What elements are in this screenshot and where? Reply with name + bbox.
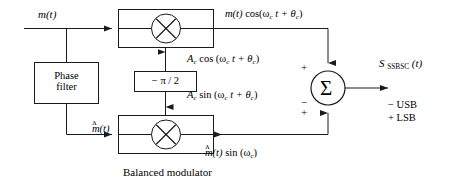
summing-junction-symbol: Σ (320, 78, 332, 99)
label-top-product-signal: m(t) cos(ωc t + θc) (225, 9, 302, 21)
carrier-cos-suffix: ) (256, 53, 260, 64)
bottom-product-func: sin (ω (223, 147, 251, 158)
phase-filter-line1: Phase (34, 70, 99, 81)
ssb-modulator-diagram: m(t) Phase filter − π / 2 × × Σ + − + m(… (0, 0, 449, 185)
label-carrier-sin: Ac sin (ωc t + θc) (187, 90, 257, 102)
top-product-suffix: ) (299, 8, 303, 19)
output-arg: (t) (412, 57, 422, 69)
carrier-cos-mid: t + θ (229, 53, 252, 64)
multiplier-top-cross (156, 19, 176, 38)
top-product-mid: t + θ (273, 8, 296, 19)
top-product-func: cos(ω (245, 8, 269, 19)
bottom-product-suffix: ) (254, 147, 258, 158)
bottom-product-hat-mark: ʌ (205, 142, 209, 151)
phase-shifter-label: − π / 2 (135, 75, 196, 86)
hilbert-hat-mark: ʌ (92, 118, 96, 127)
summer-sign-bottom: + (301, 106, 307, 118)
label-hilbert-signal: ʌm(t) (92, 124, 110, 135)
diagram-caption: Balanced modulator (123, 167, 212, 178)
label-output-signal: S SSBSC (t) (379, 58, 422, 71)
label-input-signal: m(t) (38, 9, 56, 20)
annotation-lsb: + LSB (388, 113, 416, 124)
annotation-usb: − USB (388, 100, 417, 111)
phase-filter-label: Phase filter (34, 70, 99, 93)
phase-filter-line2: filter (34, 81, 99, 92)
carrier-sin-mid: t + θ (228, 89, 251, 100)
carrier-sin-suffix: ) (254, 89, 258, 100)
summer-sign-top: + (301, 61, 307, 73)
carrier-cos-func: cos (ω (197, 53, 227, 64)
output-subscript: SSBSC (387, 63, 409, 71)
label-carrier-cos: Ac cos (ωc t + θc) (187, 54, 259, 66)
carrier-sin-func: sin (ω (197, 89, 225, 100)
multiplier-bottom-cross (156, 125, 176, 144)
label-bottom-product-signal: ʌm(t) sin (ωc) (205, 148, 257, 160)
top-product-prefix: m(t) (225, 8, 243, 19)
